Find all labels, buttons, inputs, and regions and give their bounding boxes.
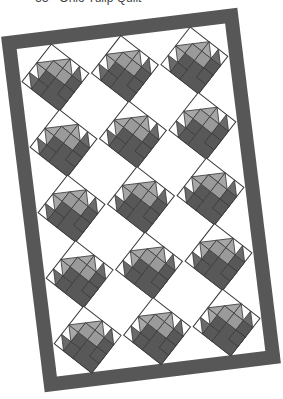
quilt-illustration	[0, 0, 283, 399]
quilt	[1, 8, 281, 392]
